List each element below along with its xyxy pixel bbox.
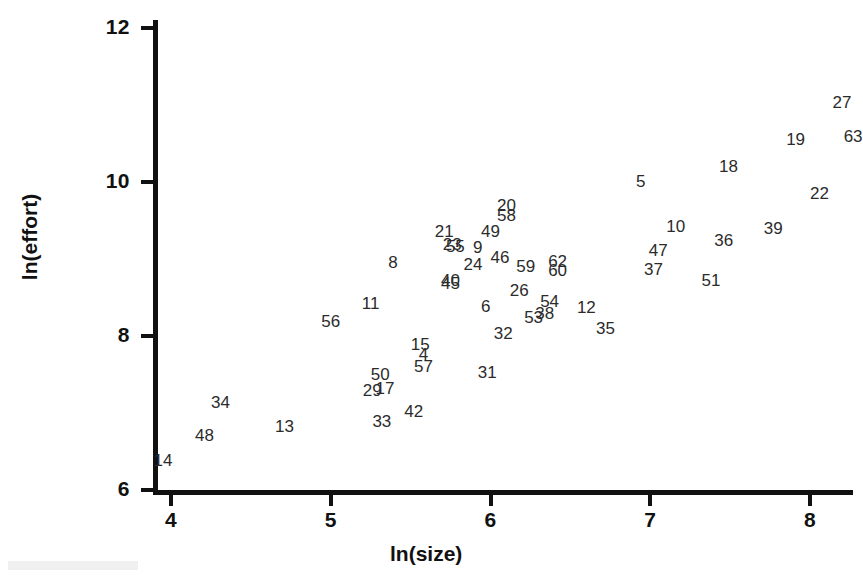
data-point-label: 51 <box>701 271 720 291</box>
data-point-label: 63 <box>844 127 863 147</box>
data-point-label: 27 <box>832 93 851 113</box>
data-point-label: 50 <box>371 365 390 385</box>
y-axis-title: ln(effort) <box>18 137 42 337</box>
x-axis-line <box>153 490 853 495</box>
y-axis-line <box>153 20 158 494</box>
data-point-label: 20 <box>497 196 516 216</box>
x-axis-tick <box>489 495 493 506</box>
x-axis-tick-label: 5 <box>311 508 351 532</box>
x-axis-tick-label: 4 <box>151 508 191 532</box>
scan-artifact <box>8 561 138 570</box>
data-point-label: 46 <box>491 248 510 268</box>
y-axis-tick <box>141 26 153 30</box>
data-point-label: 33 <box>372 412 391 432</box>
y-axis-tick <box>141 488 153 492</box>
data-point-label: 18 <box>719 157 738 177</box>
x-axis-tick <box>329 495 333 506</box>
data-point-label: 39 <box>764 219 783 239</box>
y-axis-tick <box>141 180 153 184</box>
data-point-label: 54 <box>540 292 559 312</box>
y-axis-tick-label: 8 <box>70 323 130 347</box>
x-axis-tick-label: 8 <box>790 508 830 532</box>
data-point-label: 36 <box>714 231 733 251</box>
data-point-label: 35 <box>596 319 615 339</box>
data-point-label: 42 <box>404 402 423 422</box>
data-point-label: 32 <box>494 324 513 344</box>
data-point-label: 19 <box>786 130 805 150</box>
data-point-label: 10 <box>666 217 685 237</box>
x-axis-tick <box>808 495 812 506</box>
x-axis-tick <box>169 495 173 506</box>
y-axis-tick-label: 10 <box>70 169 130 193</box>
data-point-label: 31 <box>478 363 497 383</box>
data-point-label: 8 <box>388 253 397 273</box>
data-point-label: 56 <box>321 312 340 332</box>
data-point-label: 22 <box>810 184 829 204</box>
data-point-label: 34 <box>211 393 230 413</box>
data-point-label: 15 <box>411 335 430 355</box>
x-axis-title: ln(size) <box>390 542 462 566</box>
data-point-label: 11 <box>362 294 380 314</box>
x-axis-tick-label: 7 <box>630 508 670 532</box>
x-axis-tick-label: 6 <box>471 508 511 532</box>
data-point-label: 40 <box>441 271 460 291</box>
data-point-label: 13 <box>275 417 294 437</box>
x-axis-tick <box>648 495 652 506</box>
data-point-label: 21 <box>435 222 454 242</box>
data-point-label: 12 <box>577 298 596 318</box>
data-point-label: 59 <box>516 257 535 277</box>
data-point-label: 14 <box>154 451 173 471</box>
y-axis-tick-label: 12 <box>70 15 130 39</box>
data-point-label: 47 <box>649 241 668 261</box>
data-point-label: 62 <box>548 252 567 272</box>
data-point-label: 37 <box>644 260 663 280</box>
data-point-label: 48 <box>195 426 214 446</box>
data-point-label: 26 <box>510 281 529 301</box>
data-point-label: 5 <box>636 172 645 192</box>
y-axis-tick <box>141 334 153 338</box>
y-axis-tick-label: 6 <box>70 477 130 501</box>
data-point-label: 6 <box>481 297 490 317</box>
